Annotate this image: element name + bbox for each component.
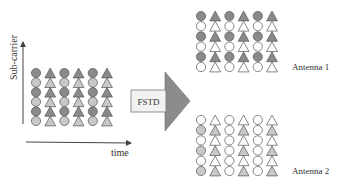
circle-symbol — [225, 11, 234, 20]
circle-symbol — [88, 88, 97, 97]
circle-symbol — [253, 126, 262, 135]
triangle-symbol — [210, 156, 221, 166]
triangle-symbol — [102, 97, 113, 107]
circle-symbol — [225, 156, 234, 165]
triangle-symbol — [73, 68, 84, 78]
circle-symbol — [88, 97, 97, 106]
time-axis — [26, 142, 131, 143]
triangle-symbol — [45, 97, 56, 107]
circle-symbol — [253, 42, 262, 51]
triangle-symbol — [73, 97, 84, 107]
circle-symbol — [253, 32, 262, 41]
triangle-symbol — [210, 52, 221, 62]
triangle-symbol — [238, 32, 249, 42]
circle-symbol — [225, 146, 234, 155]
circle-symbol — [253, 52, 262, 61]
triangle-symbol — [45, 107, 56, 117]
triangle-symbol — [267, 42, 278, 52]
circle-symbol — [225, 166, 234, 175]
triangle-symbol — [210, 62, 221, 72]
triangle-symbol — [238, 52, 249, 62]
circle-symbol — [196, 146, 205, 155]
circle-symbol — [88, 78, 97, 87]
triangle-symbol — [238, 136, 249, 146]
circle-symbol — [196, 52, 205, 61]
triangle-symbol — [238, 115, 249, 125]
triangle-symbol — [45, 116, 56, 126]
circle-symbol — [196, 115, 205, 124]
circle-symbol — [196, 126, 205, 135]
triangle-symbol — [102, 116, 113, 126]
circle-symbol — [196, 11, 205, 20]
triangle-symbol — [102, 68, 113, 78]
circle-symbol — [196, 32, 205, 41]
circle-symbol — [60, 97, 69, 106]
input-symbol-grid — [31, 68, 112, 126]
triangle-symbol — [267, 136, 278, 146]
circle-symbol — [253, 146, 262, 155]
triangle-symbol — [102, 78, 113, 88]
triangle-symbol — [102, 87, 113, 97]
triangle-symbol — [45, 87, 56, 97]
triangle-symbol — [210, 42, 221, 52]
circle-symbol — [88, 68, 97, 77]
triangle-symbol — [210, 32, 221, 42]
triangle-symbol — [238, 62, 249, 72]
antenna-1-label: Antenna 1 — [292, 62, 329, 72]
circle-symbol — [253, 62, 262, 71]
triangle-symbol — [267, 52, 278, 62]
circle-symbol — [225, 22, 234, 31]
antenna-2-symbol-grid — [196, 115, 277, 176]
triangle-symbol — [210, 11, 221, 21]
triangle-symbol — [210, 115, 221, 125]
circle-symbol — [196, 156, 205, 165]
triangle-symbol — [267, 125, 278, 135]
circle-symbol — [253, 22, 262, 31]
circle-symbol — [31, 116, 40, 125]
circle-symbol — [225, 42, 234, 51]
circle-symbol — [225, 62, 234, 71]
triangle-symbol — [267, 166, 278, 176]
triangle-symbol — [238, 125, 249, 135]
triangle-symbol — [210, 136, 221, 146]
triangle-symbol — [267, 62, 278, 72]
triangle-symbol — [267, 21, 278, 31]
triangle-symbol — [102, 107, 113, 117]
triangle-symbol — [210, 21, 221, 31]
triangle-symbol — [238, 166, 249, 176]
circle-symbol — [31, 68, 40, 77]
circle-symbol — [225, 126, 234, 135]
circle-symbol — [253, 156, 262, 165]
circle-symbol — [60, 116, 69, 125]
triangle-symbol — [238, 146, 249, 156]
triangle-symbol — [73, 87, 84, 97]
triangle-symbol — [73, 78, 84, 88]
circle-symbol — [196, 22, 205, 31]
circle-symbol — [88, 107, 97, 116]
circle-symbol — [60, 78, 69, 87]
circle-symbol — [60, 107, 69, 116]
triangle-symbol — [267, 146, 278, 156]
circle-symbol — [196, 136, 205, 145]
circle-symbol — [31, 97, 40, 106]
circle-symbol — [60, 68, 69, 77]
triangle-symbol — [45, 78, 56, 88]
circle-symbol — [253, 136, 262, 145]
circle-symbol — [88, 116, 97, 125]
circle-symbol — [225, 52, 234, 61]
fstd-diagram: Sub-carrier time FSTD Antenna 1 Antenna … — [0, 0, 341, 189]
triangle-symbol — [210, 166, 221, 176]
triangle-symbol — [210, 125, 221, 135]
circle-symbol — [253, 115, 262, 124]
triangle-symbol — [45, 68, 56, 78]
triangle-symbol — [267, 11, 278, 21]
subcarrier-axis-label: Sub-carrier — [8, 34, 19, 80]
triangle-symbol — [238, 11, 249, 21]
circle-symbol — [31, 107, 40, 116]
antenna-2-label: Antenna 2 — [292, 166, 329, 176]
circle-symbol — [196, 62, 205, 71]
triangle-symbol — [238, 42, 249, 52]
triangle-symbol — [73, 116, 84, 126]
triangle-symbol — [267, 115, 278, 125]
circle-symbol — [225, 32, 234, 41]
